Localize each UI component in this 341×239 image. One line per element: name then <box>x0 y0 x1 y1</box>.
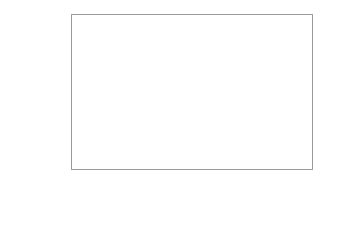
plot-area <box>71 14 313 170</box>
normal-fit-line <box>72 15 312 169</box>
probability-plot <box>0 0 341 239</box>
data-series <box>72 15 312 169</box>
